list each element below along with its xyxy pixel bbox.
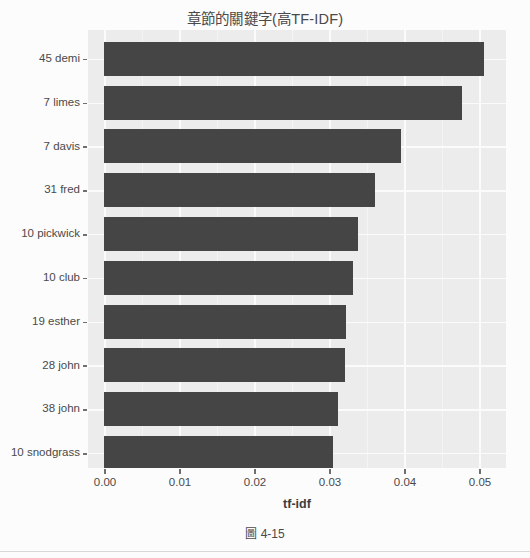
chart-title: 章節的關鍵字(高TF-IDF) xyxy=(0,7,530,28)
page-divider xyxy=(0,551,530,552)
ytick-mark-9 xyxy=(83,453,87,455)
xtick-label-0: 0.00 xyxy=(75,476,135,488)
ytick-label-1: 7 limes xyxy=(0,96,80,108)
xtick-mark-1 xyxy=(179,469,181,474)
xtick-label-5: 0.05 xyxy=(450,476,510,488)
ytick-label-9: 10 snodgrass xyxy=(0,446,80,458)
ytick-label-8: 38 john xyxy=(0,402,80,414)
ytick-mark-8 xyxy=(83,409,87,411)
ytick-label-4: 10 pickwick xyxy=(0,227,80,239)
xtick-label-4: 0.04 xyxy=(375,476,435,488)
xtick-mark-0 xyxy=(104,469,106,474)
bar-1 xyxy=(104,86,462,120)
xtick-label-3: 0.03 xyxy=(300,476,360,488)
gridline-x-0.05 xyxy=(479,30,481,468)
xaxis-title: tf-idf xyxy=(88,497,506,511)
ytick-label-5: 10 club xyxy=(0,271,80,283)
ytick-label-0: 45 demi xyxy=(0,52,80,64)
bar-4 xyxy=(104,217,358,251)
ytick-mark-3 xyxy=(83,190,87,192)
ytick-mark-6 xyxy=(83,322,87,324)
bar-8 xyxy=(104,392,338,426)
xtick-label-1: 0.01 xyxy=(150,476,210,488)
bar-6 xyxy=(104,305,346,339)
figure-caption: 圖 4-15 xyxy=(0,524,530,541)
bar-2 xyxy=(104,129,400,163)
figure-container: 章節的關鍵字(高TF-IDF) xyxy=(0,0,530,558)
xtick-mark-5 xyxy=(479,469,481,474)
ytick-mark-5 xyxy=(83,278,87,280)
ytick-label-6: 19 esther xyxy=(0,315,80,327)
ytick-label-3: 31 fred xyxy=(0,183,80,195)
xtick-mark-4 xyxy=(404,469,406,474)
xtick-mark-3 xyxy=(329,469,331,474)
bar-9 xyxy=(104,436,333,468)
ytick-mark-4 xyxy=(83,234,87,236)
ytick-mark-0 xyxy=(83,59,87,61)
ytick-label-2: 7 davis xyxy=(0,140,80,152)
ytick-mark-7 xyxy=(83,365,87,367)
bar-3 xyxy=(104,173,374,207)
ytick-label-7: 28 john xyxy=(0,359,80,371)
xtick-label-2: 0.02 xyxy=(225,476,285,488)
ytick-mark-2 xyxy=(83,146,87,148)
bar-7 xyxy=(104,348,345,382)
bar-0 xyxy=(104,42,484,76)
xtick-mark-2 xyxy=(254,469,256,474)
plot-area xyxy=(88,30,506,468)
ytick-mark-1 xyxy=(83,103,87,105)
bar-5 xyxy=(104,261,353,295)
